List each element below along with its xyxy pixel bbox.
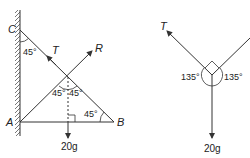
force-diagram: C A B T R 20g 45° 45° 45° 45° T 135° 135… (0, 0, 250, 158)
right-angle-mark (68, 115, 75, 122)
angle-label-top-right: 45° (69, 88, 83, 98)
left-diagram: C A B T R 20g 45° 45° 45° 45° (5, 10, 124, 152)
angle-label-b: 45° (84, 109, 98, 119)
angle-arc-b (100, 112, 104, 122)
right-diagram: T 135° 135° 20g (160, 20, 250, 154)
label-b: B (117, 116, 124, 128)
reaction-arrow (20, 51, 92, 122)
angle-label-c: 45° (23, 47, 37, 57)
label-r: R (95, 42, 103, 54)
label-a: A (5, 116, 13, 128)
label-t-left: T (52, 44, 60, 56)
label-t-right: T (160, 20, 168, 32)
angle-arc-c (20, 39, 29, 43)
angle-arc-right (212, 68, 223, 86)
right-angle-mark-right (205, 61, 219, 68)
angle-label-left: 135° (181, 72, 200, 82)
label-weight-right: 20g (204, 143, 221, 154)
tension-arrow-right (167, 31, 212, 75)
angle-label-top-left: 45° (52, 88, 66, 98)
angle-arc-left (201, 68, 212, 86)
tension-arrow (47, 56, 56, 65)
reaction-line-right (212, 38, 250, 75)
label-weight-left: 20g (61, 141, 78, 152)
angle-label-right: 135° (224, 72, 243, 82)
label-c: C (8, 23, 16, 35)
